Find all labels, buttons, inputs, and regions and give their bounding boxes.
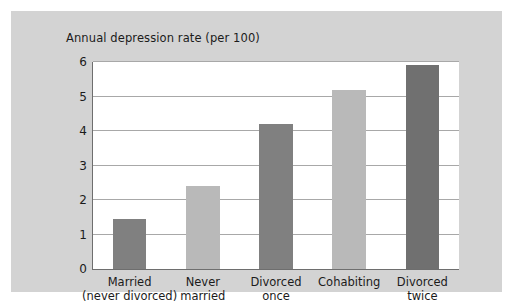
x-axis-tick-label-line2: twice: [397, 289, 448, 303]
chart-title: Annual depression rate (per 100): [66, 31, 260, 45]
gridline: [93, 61, 459, 62]
plot-area: 0123456 Married(never divorced)Nevermarr…: [92, 62, 459, 270]
x-axis-tick-label-line1: Divorced: [397, 275, 448, 289]
y-axis-tick-label: 3: [79, 159, 87, 173]
x-axis-tick-label-line1: Cohabiting: [318, 275, 380, 289]
y-axis-tick-label: 5: [79, 90, 87, 104]
x-axis-tick-label: Divorcedonce: [250, 275, 301, 303]
bar: [113, 219, 147, 269]
bar: [332, 90, 366, 269]
bar: [259, 124, 293, 269]
gridline: [93, 96, 459, 97]
x-axis-tick-label-line1: Never: [186, 275, 220, 289]
y-axis-tick-label: 6: [79, 55, 87, 69]
x-axis-tick-label: Married(never divorced): [82, 275, 177, 303]
x-axis-tick-label: Nevermarried: [180, 275, 225, 303]
x-axis-tick-label-line2: married: [180, 289, 225, 303]
bar: [406, 65, 440, 269]
x-axis-tick-label: Cohabiting: [318, 275, 380, 289]
y-axis-tick-label: 1: [79, 228, 87, 242]
bar: [186, 186, 220, 269]
y-axis-tick-label: 2: [79, 193, 87, 207]
x-axis-tick-label-line1: Divorced: [250, 275, 301, 289]
y-axis-tick-label: 4: [79, 124, 87, 138]
y-axis-tick-label: 0: [79, 262, 87, 276]
x-axis-tick-label-line2: once: [250, 289, 301, 303]
x-axis-tick-label-line2: (never divorced): [82, 289, 177, 303]
x-axis-tick-label-line1: Married: [108, 275, 152, 289]
chart-figure: Annual depression rate (per 100) 0123456…: [11, 11, 502, 292]
x-axis-tick-label: Divorcedtwice: [397, 275, 448, 303]
